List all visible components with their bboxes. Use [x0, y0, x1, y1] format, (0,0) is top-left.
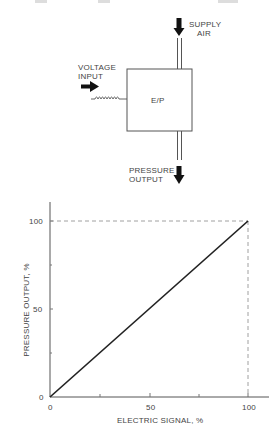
voltage-input-label: VOLTAGE INPUT — [78, 63, 116, 81]
coil-icon — [91, 97, 127, 99]
x-tick-label-50: 50 — [146, 403, 155, 412]
output-pipe — [178, 131, 182, 160]
pressure-output-label: PRESSURE OUTPUT — [129, 166, 175, 184]
x-axis-title: ELECTRIC SIGNAL, % — [117, 416, 203, 425]
voltage-arrow-icon — [81, 81, 99, 92]
data-line — [50, 221, 248, 397]
y-tick-label-50: 50 — [33, 305, 42, 314]
output-arrow-icon — [174, 166, 185, 184]
y-axis-title: PRESSURE OUTPUT, % — [22, 263, 31, 356]
x-tick-label-0: 0 — [48, 403, 53, 412]
device-label: E/P — [151, 96, 165, 105]
supply-arrow-icon — [174, 18, 185, 36]
supply-air-label: SUPPLY AIR — [189, 20, 221, 38]
x-ticks — [100, 393, 248, 397]
y-tick-label-100: 100 — [29, 217, 43, 226]
x-tick-label-100: 100 — [242, 403, 256, 412]
supply-pipe — [178, 38, 182, 69]
y-tick-label-0: 0 — [39, 393, 44, 402]
